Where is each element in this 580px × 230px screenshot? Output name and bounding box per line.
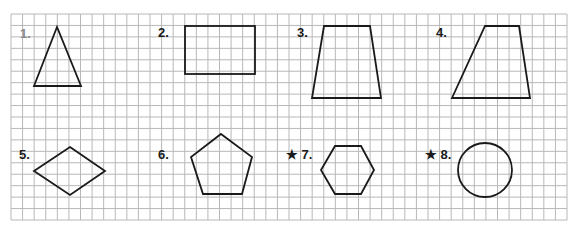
grid-lines bbox=[11, 14, 567, 220]
shape-5-rhombus bbox=[34, 147, 105, 195]
exercise-4-label: 4. bbox=[436, 26, 447, 39]
worksheet: 1. 2. 3. 4. 5. 6. ★ 7. ★ 8. bbox=[0, 0, 580, 230]
exercise-3-label: 3. bbox=[297, 26, 308, 39]
grid-paper bbox=[0, 0, 580, 230]
exercise-8-label: ★ 8. bbox=[425, 148, 451, 161]
exercise-7-label: ★ 7. bbox=[286, 148, 312, 161]
exercise-5-label: 5. bbox=[19, 148, 30, 161]
exercise-6-label: 6. bbox=[158, 148, 169, 161]
shape-7-hexagon bbox=[321, 146, 374, 194]
exercise-2-label: 2. bbox=[158, 26, 169, 39]
exercise-1-label: 1. bbox=[20, 27, 31, 40]
